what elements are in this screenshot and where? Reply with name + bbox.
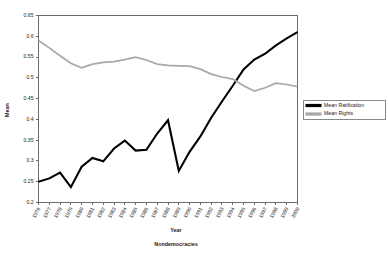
x-tick-label: 1984 — [117, 206, 128, 219]
x-tick-label: 1991 — [193, 206, 204, 219]
y-tick-label: 0.2 — [26, 199, 33, 205]
legend-swatch — [306, 112, 322, 115]
x-tick-label: 1980 — [74, 206, 85, 219]
x-tick-label: 1981 — [85, 206, 96, 219]
y-tick-label: 0.6 — [26, 33, 33, 39]
x-tick-label: 1976 — [31, 206, 42, 219]
data-series-group — [39, 32, 298, 187]
x-axis-subtitle: Nondemocracies — [154, 241, 197, 247]
y-tick-label: 0.5 — [26, 74, 33, 80]
x-tick-label: 1986 — [139, 206, 150, 219]
chart-figure: 0.650.60.550.50.450.40.350.30.250.2 1976… — [0, 0, 388, 253]
series-line-mean-ratification — [39, 32, 298, 187]
line-chart-svg: 0.650.60.550.50.450.40.350.30.250.2 1976… — [0, 0, 388, 253]
y-tick-label: 0.35 — [24, 137, 34, 143]
x-tick-label: 1997 — [257, 206, 268, 219]
chart-legend: Mean RatificationMean Rights — [303, 100, 385, 119]
y-tick-label: 0.45 — [24, 95, 34, 101]
x-tick-label: 1994 — [225, 206, 236, 219]
y-axis-ticks: 0.650.60.550.50.450.40.350.30.250.2 — [24, 12, 39, 205]
y-tick-label: 0.3 — [26, 157, 33, 163]
y-tick-label: 0.4 — [26, 116, 33, 122]
y-tick-label: 0.25 — [24, 178, 34, 184]
x-tick-label: 1985 — [128, 206, 139, 219]
x-tick-label: 1983 — [106, 206, 117, 219]
legend-swatch — [306, 104, 322, 107]
legend-label: Mean Rights — [324, 110, 354, 116]
x-tick-label: 1978 — [52, 206, 63, 219]
x-tick-label: 1977 — [42, 206, 53, 219]
series-line-mean-rights — [39, 40, 298, 91]
legend-label: Mean Ratification — [324, 102, 364, 108]
x-axis-tick-labels: 1976197719781979198019811982198319841985… — [31, 206, 301, 219]
x-tick-label: 1992 — [203, 206, 214, 219]
x-tick-label: 1979 — [63, 206, 74, 219]
y-tick-label: 0.65 — [24, 12, 34, 18]
x-tick-label: 2000 — [290, 206, 301, 219]
x-tick-label: 1993 — [214, 206, 225, 219]
x-axis-title: Year — [170, 227, 182, 233]
x-tick-label: 1996 — [247, 206, 258, 219]
x-tick-label: 1987 — [149, 206, 160, 219]
x-tick-label: 1998 — [268, 206, 279, 219]
x-tick-label: 1999 — [279, 206, 290, 219]
y-axis-title: Mean — [4, 103, 10, 117]
x-tick-label: 1982 — [96, 206, 107, 219]
x-tick-label: 1995 — [236, 206, 247, 219]
y-tick-label: 0.55 — [24, 53, 34, 59]
x-tick-label: 1989 — [171, 206, 182, 219]
x-tick-label: 1990 — [182, 206, 193, 219]
x-tick-label: 1988 — [160, 206, 171, 219]
